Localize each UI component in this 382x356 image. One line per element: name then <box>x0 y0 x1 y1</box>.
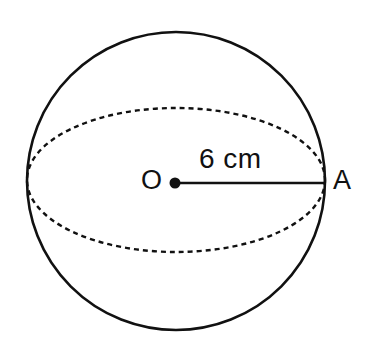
radius-measurement-label: 6 cm <box>199 145 262 173</box>
sphere-diagram-canvas <box>0 0 382 356</box>
center-point-label: O <box>141 167 162 194</box>
center-point-dot <box>170 178 181 189</box>
point-a-label: A <box>333 167 351 194</box>
sphere-diagram-figure: O 6 cm A <box>0 0 382 356</box>
